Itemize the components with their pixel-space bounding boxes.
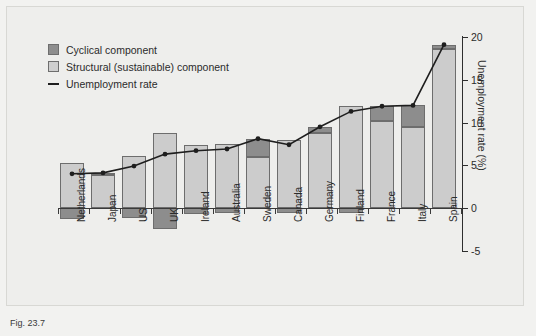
unemployment-rate-marker bbox=[132, 164, 137, 169]
x-axis-label: UK bbox=[169, 208, 180, 222]
unemployment-rate-marker bbox=[225, 147, 230, 152]
x-axis-tick bbox=[306, 208, 307, 214]
y-axis-line bbox=[462, 36, 463, 251]
y-axis-tick bbox=[462, 37, 468, 38]
figure-caption: Fig. 23.7 bbox=[10, 318, 45, 328]
x-axis-zero-line bbox=[58, 208, 462, 209]
unemployment-rate-marker bbox=[163, 152, 168, 157]
unemployment-rate-marker bbox=[411, 103, 416, 108]
x-axis-tick bbox=[182, 208, 183, 214]
x-axis-tick bbox=[430, 208, 431, 214]
unemployment-rate-marker bbox=[101, 171, 106, 176]
y-axis-tick-label: 20 bbox=[471, 32, 483, 42]
x-axis-label: US bbox=[138, 208, 149, 222]
unemployment-rate-marker bbox=[256, 136, 261, 141]
x-axis-tick bbox=[151, 208, 152, 214]
unemployment-rate-line bbox=[72, 45, 444, 174]
y-axis-tick bbox=[462, 123, 468, 124]
x-axis-label: Ireland bbox=[200, 191, 211, 222]
y-axis-label: Unemployment rate (%) bbox=[476, 60, 488, 171]
x-axis-tick bbox=[337, 208, 338, 214]
x-axis-tick bbox=[89, 208, 90, 214]
unemployment-rate-line-series bbox=[58, 30, 462, 212]
y-axis-tick-label: 0 bbox=[471, 203, 477, 213]
x-axis-label: Spain bbox=[448, 196, 459, 222]
unemployment-rate-marker bbox=[194, 148, 199, 153]
unemployment-rate-marker bbox=[287, 142, 292, 147]
x-axis-label: Finland bbox=[355, 189, 366, 222]
y-axis-tick bbox=[462, 208, 468, 209]
y-axis-tick-label: -5 bbox=[471, 246, 480, 256]
unemployment-rate-marker bbox=[380, 104, 385, 109]
x-axis-label: Sweden bbox=[262, 186, 273, 222]
x-axis-tick bbox=[120, 208, 121, 214]
x-axis-tick bbox=[399, 208, 400, 214]
x-axis-tick bbox=[244, 208, 245, 214]
y-axis-tick bbox=[462, 80, 468, 81]
x-axis-label: Australia bbox=[231, 183, 242, 222]
unemployment-rate-marker bbox=[349, 109, 354, 114]
x-axis-label: Netherlands bbox=[76, 168, 87, 222]
x-axis-tick bbox=[368, 208, 369, 214]
unemployment-rate-marker bbox=[318, 124, 323, 129]
x-axis-label: Italy bbox=[417, 204, 428, 222]
x-axis-tick bbox=[275, 208, 276, 214]
x-axis-label: Germany bbox=[324, 181, 335, 222]
y-axis-tick bbox=[462, 251, 468, 252]
x-axis-label: Canada bbox=[293, 187, 304, 222]
figure-container: Cyclical component Structural (sustainab… bbox=[0, 0, 536, 336]
x-axis-label: Japan bbox=[107, 195, 118, 222]
x-axis-label: France bbox=[386, 191, 397, 222]
unemployment-rate-marker bbox=[442, 42, 447, 47]
y-axis-tick bbox=[462, 165, 468, 166]
unemployment-rate-marker bbox=[70, 171, 75, 176]
x-axis-tick bbox=[213, 208, 214, 214]
x-axis-tick bbox=[58, 208, 59, 214]
